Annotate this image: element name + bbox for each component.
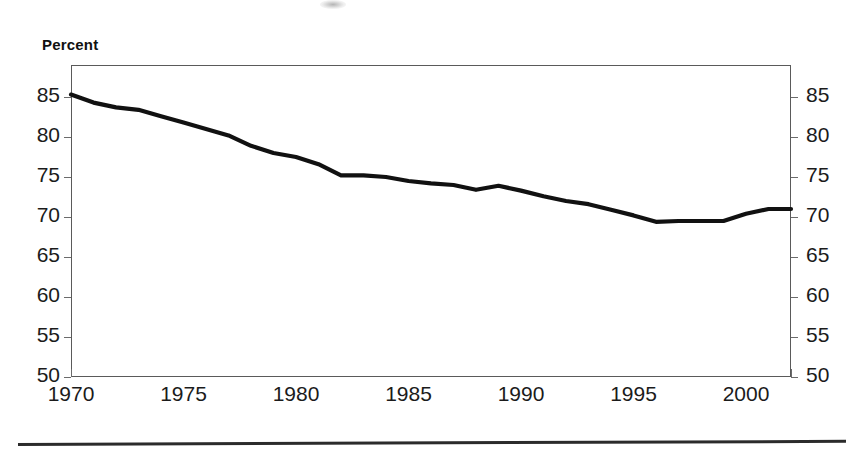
y-tick-label-left-80: 80	[16, 124, 60, 145]
y-tickmark-right-55	[791, 337, 798, 338]
scan-artifact	[320, 0, 346, 9]
y-tickmark-left-75	[64, 177, 71, 178]
x-tick-label-1970: 1970	[36, 383, 106, 404]
y-tick-label-right-50: 50	[806, 364, 854, 385]
data-series-line	[71, 65, 791, 377]
y-tick-label-left-85: 85	[16, 84, 60, 105]
y-tick-label-right-80: 80	[806, 124, 854, 145]
page-separator-rule	[18, 440, 846, 446]
y-tick-label-right-55: 55	[806, 324, 854, 345]
y-tickmark-right-65	[791, 257, 798, 258]
y-tickmark-left-65	[64, 257, 71, 258]
y-tick-label-left-65: 65	[16, 244, 60, 265]
y-tickmark-left-70	[64, 217, 71, 218]
y-tick-label-left-70: 70	[16, 204, 60, 225]
y-tickmark-right-60	[791, 297, 798, 298]
y-tick-label-right-60: 60	[806, 284, 854, 305]
x-tick-label-1975: 1975	[149, 383, 219, 404]
y-tickmark-right-85	[791, 97, 798, 98]
x-tickmark-end	[791, 369, 792, 377]
y-tick-label-left-55: 55	[16, 324, 60, 345]
y-tickmark-left-55	[64, 337, 71, 338]
y-tickmark-left-60	[64, 297, 71, 298]
y-tickmark-right-70	[791, 217, 798, 218]
y-tick-label-right-70: 70	[806, 204, 854, 225]
y-tickmark-right-75	[791, 177, 798, 178]
x-tick-label-1995: 1995	[599, 383, 669, 404]
y-tick-label-left-75: 75	[16, 164, 60, 185]
y-tickmark-left-85	[64, 97, 71, 98]
x-tick-label-2000: 2000	[711, 383, 781, 404]
chart-figure: Percent 8580757065605550 858075706560555…	[0, 0, 860, 460]
y-tick-label-left-60: 60	[16, 284, 60, 305]
y-tickmark-right-80	[791, 137, 798, 138]
y-axis-title: Percent	[42, 36, 98, 53]
y-tick-label-right-85: 85	[806, 84, 854, 105]
y-tickmark-left-50	[64, 377, 71, 378]
x-tick-label-1980: 1980	[261, 383, 331, 404]
y-tick-label-right-75: 75	[806, 164, 854, 185]
y-tickmark-right-50	[791, 377, 798, 378]
x-tick-label-1990: 1990	[486, 383, 556, 404]
y-tick-label-right-65: 65	[806, 244, 854, 265]
x-tick-label-1985: 1985	[374, 383, 444, 404]
y-tickmark-left-80	[64, 137, 71, 138]
